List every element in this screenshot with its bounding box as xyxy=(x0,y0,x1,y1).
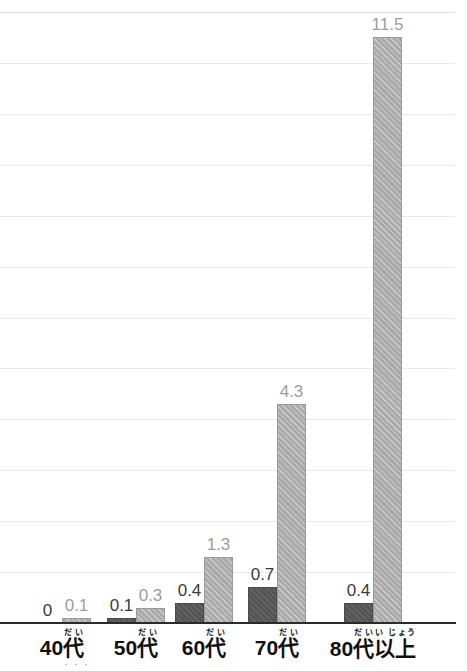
x-axis-label-70代: 70代だい xyxy=(255,628,299,660)
x-label-number: 50 xyxy=(114,636,137,659)
bar-dark-80代以上 xyxy=(344,603,373,623)
value-label-dark-40代: 0 xyxy=(43,602,52,619)
value-label-dark-80代以上: 0.4 xyxy=(347,582,371,599)
x-label-number: 70 xyxy=(255,636,278,659)
bar-light-70代 xyxy=(277,404,306,623)
x-axis-line xyxy=(0,622,456,624)
value-label-light-80代以上: 11.5 xyxy=(372,16,404,33)
value-label-light-40代: 0.1 xyxy=(65,597,89,614)
value-label-light-50代: 0.3 xyxy=(139,587,163,604)
x-label-ruby-dai: 代だい xyxy=(137,636,158,659)
x-axis-label-80代以上: 80代だい以上い じょう xyxy=(330,628,416,661)
x-label-ruby-dai: 代だい xyxy=(205,636,226,659)
value-label-dark-50代: 0.1 xyxy=(110,597,134,614)
value-label-dark-60代: 0.4 xyxy=(178,582,202,599)
bar-light-60代 xyxy=(204,557,233,623)
x-label-number: 60 xyxy=(182,636,205,659)
x-label-ruby-dai: 代だい xyxy=(278,636,299,659)
bar-light-80代以上 xyxy=(373,37,402,623)
x-label-ruby-dai: 代だい xyxy=(63,636,84,659)
x-label-number: 40 xyxy=(40,636,63,659)
value-label-light-70代: 4.3 xyxy=(280,383,304,400)
x-axis-label-40代: 40代だい xyxy=(40,628,84,660)
x-label-number: 80 xyxy=(330,637,353,660)
x-axis-label-50代: 50代だい xyxy=(114,628,158,660)
gridline xyxy=(0,12,455,13)
plot-area: 00.10.10.30.41.30.74.30.411.5 xyxy=(0,12,455,623)
value-label-light-60代: 1.3 xyxy=(207,536,231,553)
x-axis-label-60代: 60代だい xyxy=(182,628,226,660)
bar-chart: 00.10.10.30.41.30.74.30.411.5 40代だい50代だい… xyxy=(0,0,467,671)
bar-dark-60代 xyxy=(175,603,204,623)
bar-light-50代 xyxy=(136,608,165,623)
x-label-ruby-dai: 代だい xyxy=(353,637,374,660)
bottom-clipped-text-artifact: ・・・ xyxy=(62,661,96,667)
x-label-ruby-ijou: 以上い じょう xyxy=(374,637,416,660)
value-label-dark-70代: 0.7 xyxy=(251,566,275,583)
bar-dark-70代 xyxy=(248,587,277,623)
